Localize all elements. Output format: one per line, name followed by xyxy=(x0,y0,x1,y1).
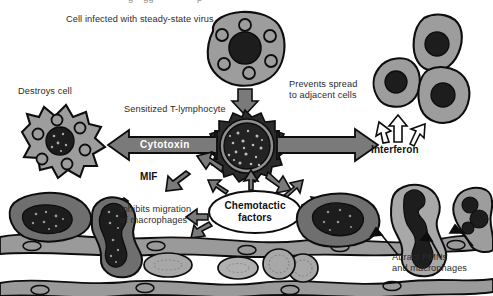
adjacent-cell-1 xyxy=(414,15,462,71)
infected-cell xyxy=(208,12,285,86)
label-interferon: Interferon xyxy=(371,144,419,155)
macrophage-left xyxy=(10,193,91,242)
interferon-burst-arrows xyxy=(376,115,425,146)
adjacent-cell-3 xyxy=(418,67,469,123)
chemotactic-arrows-in xyxy=(266,172,291,193)
label-inhibits-line2: of macrophages xyxy=(120,215,187,226)
vessel-lower-endothelium xyxy=(0,279,493,296)
sensitized-t-lymphocyte xyxy=(207,110,287,182)
macrophage-right xyxy=(297,194,379,247)
label-sensitized-t-lymphocyte: Sensitized T-lymphocyte xyxy=(124,104,226,115)
label-prevents-spread-line1: Prevents spread xyxy=(289,79,357,90)
interferon-arrow xyxy=(277,129,378,161)
label-infected-cell: Cell infected with steady-state virus xyxy=(66,14,214,25)
adjacent-cells-group xyxy=(374,15,470,123)
label-destroys-cell: Destroys cell xyxy=(18,86,72,97)
destroyed-cell xyxy=(22,105,105,178)
label-inhibits-line1: Inhibits migration xyxy=(120,204,191,215)
label-attract-line1: Attract PMNs xyxy=(392,252,447,263)
label-prevents-spread-line2: to adjacent cells xyxy=(289,90,357,101)
label-chemotactic-line2: factors xyxy=(212,212,298,223)
label-mif: MIF xyxy=(140,171,158,182)
adjacent-cell-2 xyxy=(374,58,420,106)
label-cytotoxin: Cytotoxin xyxy=(140,139,190,150)
label-attract-line2: and macrophages xyxy=(392,263,467,274)
diagram-canvas: g gg p xyxy=(0,0,493,296)
label-chemotactic-line1: Chemotactic xyxy=(212,200,298,211)
